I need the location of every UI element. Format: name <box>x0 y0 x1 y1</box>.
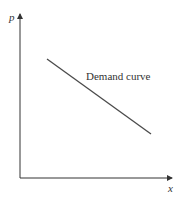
demand-curve-label: Demand curve <box>86 70 151 82</box>
x-axis-label: x <box>167 182 173 194</box>
y-axis-label: p <box>8 11 15 23</box>
demand-curve-diagram: p x Demand curve <box>0 0 182 204</box>
